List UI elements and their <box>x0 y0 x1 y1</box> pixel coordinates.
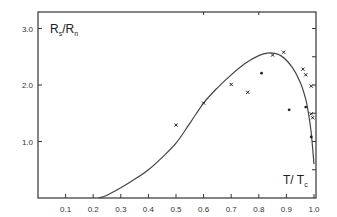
x-axis-ticks: 0.10.20.30.40.50.60.70.80.91.0 <box>60 194 320 214</box>
data-point-x-marker <box>271 53 274 56</box>
x-tick-label: 0.6 <box>198 205 210 214</box>
x-tick-label: 0.8 <box>253 205 265 214</box>
x-axis-label: T/ Tc <box>283 173 308 188</box>
x-tick-label: 0.2 <box>88 205 100 214</box>
data-point-dot-marker <box>260 72 263 75</box>
data-point-x-marker <box>304 73 307 76</box>
data-point-x-marker <box>230 83 233 86</box>
x-tick-label: 0.9 <box>281 205 293 214</box>
theory-curve <box>99 53 314 198</box>
data-point-dot-marker <box>310 136 313 139</box>
x-tick-label: 0.4 <box>143 205 155 214</box>
data-point-x-marker <box>310 85 313 88</box>
x-tick-label: 1.0 <box>308 205 320 214</box>
data-point-dot-marker <box>304 106 307 109</box>
data-point-x-marker <box>301 68 304 71</box>
plot-frame <box>38 12 316 198</box>
data-point-x-marker <box>310 112 313 115</box>
data-point-x-marker <box>282 51 285 54</box>
y-tick-label: 1.0 <box>22 138 34 147</box>
y-tick-label: 3.0 <box>22 25 34 34</box>
data-points-dot-markers <box>260 72 312 139</box>
x-tick-label: 0.7 <box>226 205 238 214</box>
y-axis-label: Rs/Rn <box>50 22 78 37</box>
x-tick-label: 0.1 <box>60 205 72 214</box>
y-axis-ticks: 1.02.03.0 <box>22 25 42 147</box>
x-tick-label: 0.3 <box>115 205 127 214</box>
data-point-x-marker <box>246 91 249 94</box>
data-point-dot-marker <box>288 108 291 111</box>
x-tick-label: 0.5 <box>170 205 182 214</box>
data-point-x-marker <box>202 101 205 104</box>
y-tick-label: 2.0 <box>22 81 34 90</box>
data-point-x-marker <box>311 116 314 119</box>
chart-canvas: 0.10.20.30.40.50.60.70.80.91.0 1.02.03.0… <box>0 0 337 217</box>
data-point-x-marker <box>174 124 177 127</box>
